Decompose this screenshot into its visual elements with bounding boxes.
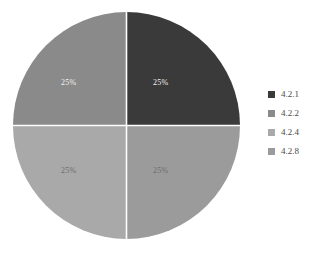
legend-item-label: 4.2.8 (281, 147, 299, 156)
legend-item[interactable]: 4.2.2 (268, 109, 299, 117)
legend-item[interactable]: 4.2.8 (268, 147, 299, 155)
pie-slice-0[interactable] (127, 12, 241, 126)
pie-slice-3[interactable] (127, 126, 241, 240)
legend-item[interactable]: 4.2.4 (268, 128, 299, 136)
legend-swatch-icon (268, 110, 275, 117)
legend-swatch-icon (268, 148, 275, 155)
pie-chart-svg (13, 12, 240, 239)
legend-item-label: 4.2.1 (281, 90, 299, 99)
legend-item[interactable]: 4.2.1 (268, 90, 299, 98)
pie-chart-figure: 25% 25% 25% 25% 4.2.1 4.2.2 4.2.4 4.2.8 (0, 0, 324, 255)
pie-slice-2[interactable] (13, 126, 127, 240)
legend-item-label: 4.2.4 (281, 128, 299, 137)
legend-swatch-icon (268, 129, 275, 136)
pie-chart-plot-area: 25% 25% 25% 25% (13, 12, 240, 239)
legend-swatch-icon (268, 91, 275, 98)
chart-legend: 4.2.1 4.2.2 4.2.4 4.2.8 (268, 90, 299, 155)
pie-slice-1[interactable] (13, 12, 127, 126)
legend-item-label: 4.2.2 (281, 109, 299, 118)
